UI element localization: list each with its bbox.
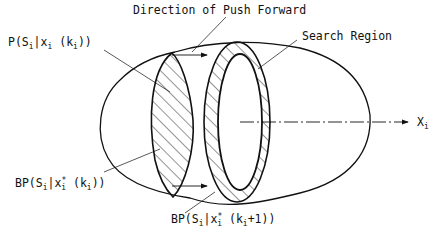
label-axis-xi: Xi — [417, 115, 429, 131]
label-direction-of-push-forward: Direction of Push Forward — [133, 3, 306, 17]
label-prior-probability: P(Si|xi (ki)) — [8, 35, 92, 51]
label-bp-k: BP(Si|x*i (ki)) — [15, 176, 106, 192]
leader-bp-k — [104, 149, 160, 172]
prior-hatched-slice — [151, 53, 193, 197]
leader-direction — [192, 17, 226, 52]
label-search-region: Search Region — [302, 29, 392, 43]
push-forward-diagram: Direction of Push Forward Search Region … — [0, 0, 439, 238]
label-bp-k-plus-1: BP(Si|x*i (ki+1)) — [171, 212, 275, 228]
